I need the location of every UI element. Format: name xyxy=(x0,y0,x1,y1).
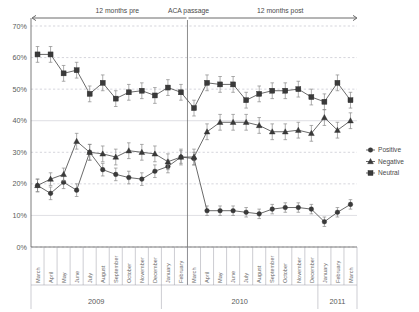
x-axis-month-label-12: March xyxy=(191,267,197,283)
x-axis-month-label-23: February xyxy=(335,260,341,283)
x-axis-month-label-18: September xyxy=(269,256,275,283)
legend-label-negative: Negative xyxy=(378,158,404,166)
chart-figure: 0%10%20%30%40%50%60%70%12 months preACA … xyxy=(0,0,419,312)
marker-neutral-24 xyxy=(348,98,353,103)
legend-item-neutral[interactable]: Neutral xyxy=(366,169,400,176)
marker-positive-22 xyxy=(322,219,327,224)
marker-positive-legend xyxy=(368,148,373,153)
legend-label-neutral: Neutral xyxy=(378,169,400,176)
x-axis-month-label-15: June xyxy=(230,271,236,283)
marker-positive-13 xyxy=(205,208,210,213)
x-axis-month-label-16: July xyxy=(243,273,249,283)
x-axis-month-label-20: November xyxy=(296,257,302,283)
marker-neutral-3 xyxy=(74,68,79,73)
marker-negative-24 xyxy=(348,118,354,123)
y-axis-tick-20: 20% xyxy=(13,179,28,188)
x-axis-month-label-24: March xyxy=(348,267,354,283)
x-axis-month-label-17: August xyxy=(256,265,262,283)
x-axis-month-label-3: June xyxy=(74,271,80,283)
marker-negative-2 xyxy=(61,171,67,176)
marker-neutral-17 xyxy=(257,91,262,96)
marker-positive-1 xyxy=(48,191,53,196)
marker-neutral-12 xyxy=(192,106,197,111)
x-axis-year-label-2010: 2010 xyxy=(231,297,247,306)
x-axis-year-label-2011: 2011 xyxy=(329,297,345,306)
marker-negative-13 xyxy=(204,129,210,134)
y-axis-tick-10: 10% xyxy=(13,211,28,220)
marker-neutral-15 xyxy=(231,82,236,87)
series-neutral xyxy=(35,47,353,116)
marker-positive-9 xyxy=(153,169,158,174)
marker-positive-14 xyxy=(218,208,223,213)
marker-negative-7 xyxy=(126,148,132,153)
x-axis-month-label-7: October xyxy=(126,263,132,283)
marker-neutral-11 xyxy=(178,90,183,95)
marker-neutral-23 xyxy=(335,80,340,85)
series-negative xyxy=(35,110,354,192)
x-axis-month-label-9: December xyxy=(152,257,158,283)
y-axis-tick-30: 30% xyxy=(13,148,28,157)
marker-neutral-22 xyxy=(322,99,327,104)
y-axis-tick-60: 60% xyxy=(13,53,28,62)
marker-neutral-4 xyxy=(87,91,92,96)
x-axis-month-label-5: August xyxy=(100,265,106,283)
x-axis-year-label-2009: 2009 xyxy=(88,297,104,306)
marker-neutral-8 xyxy=(139,88,144,93)
marker-positive-16 xyxy=(244,210,249,215)
marker-neutral-13 xyxy=(205,80,210,85)
marker-neutral-legend xyxy=(368,171,373,176)
x-axis-month-label-8: November xyxy=(139,257,145,283)
marker-neutral-14 xyxy=(218,82,223,87)
x-axis-month-label-2: May xyxy=(61,272,67,283)
y-axis-tick-70: 70% xyxy=(13,22,28,31)
marker-neutral-9 xyxy=(152,93,157,98)
marker-positive-18 xyxy=(270,207,275,212)
x-axis-month-label-21: December xyxy=(309,257,315,283)
marker-positive-6 xyxy=(113,172,118,177)
marker-positive-23 xyxy=(335,210,340,215)
x-axis-month-label-22: January xyxy=(322,263,328,283)
marker-neutral-19 xyxy=(283,88,288,93)
x-axis-month-label-19: October xyxy=(282,263,288,283)
marker-neutral-7 xyxy=(126,90,131,95)
marker-positive-5 xyxy=(100,167,105,172)
legend-item-positive[interactable]: Positive xyxy=(366,146,401,153)
marker-neutral-0 xyxy=(35,52,40,57)
x-axis-month-label-1: April xyxy=(48,272,54,283)
annotation-aca-passage: ACA passage xyxy=(168,7,209,15)
marker-neutral-18 xyxy=(270,88,275,93)
marker-neutral-2 xyxy=(61,71,66,76)
marker-positive-20 xyxy=(296,205,301,210)
marker-neutral-6 xyxy=(113,96,118,101)
chart-canvas: 0%10%20%30%40%50%60%70%12 months preACA … xyxy=(0,0,419,312)
x-axis-month-label-0: March xyxy=(35,267,41,283)
legend-label-positive: Positive xyxy=(378,146,401,153)
x-axis-month-label-4: July xyxy=(87,273,93,283)
marker-positive-17 xyxy=(257,212,262,217)
marker-neutral-16 xyxy=(244,98,249,103)
marker-positive-24 xyxy=(348,202,353,207)
marker-positive-7 xyxy=(127,175,132,180)
annotation-post-period: 12 months post xyxy=(257,7,304,15)
marker-negative-22 xyxy=(322,115,328,120)
marker-negative-20 xyxy=(295,127,301,132)
x-axis-month-label-6: September xyxy=(113,256,119,283)
marker-positive-19 xyxy=(283,205,288,210)
y-axis-tick-40: 40% xyxy=(13,116,28,125)
marker-positive-3 xyxy=(74,188,79,193)
legend-item-negative[interactable]: Negative xyxy=(366,158,404,166)
marker-negative-3 xyxy=(74,138,80,143)
y-axis-tick-50: 50% xyxy=(13,85,28,94)
marker-neutral-5 xyxy=(100,80,105,85)
marker-neutral-21 xyxy=(309,95,314,100)
marker-neutral-20 xyxy=(296,87,301,92)
marker-positive-15 xyxy=(231,208,236,213)
x-axis-month-label-13: April xyxy=(204,272,210,283)
marker-neutral-1 xyxy=(48,52,53,57)
y-axis-tick-0: 0% xyxy=(17,243,28,252)
x-axis-month-label-10: January xyxy=(165,263,171,283)
marker-positive-8 xyxy=(140,177,145,182)
annotation-pre-period: 12 months pre xyxy=(96,7,140,15)
marker-neutral-10 xyxy=(165,85,170,90)
x-axis-month-label-14: May xyxy=(217,272,223,283)
